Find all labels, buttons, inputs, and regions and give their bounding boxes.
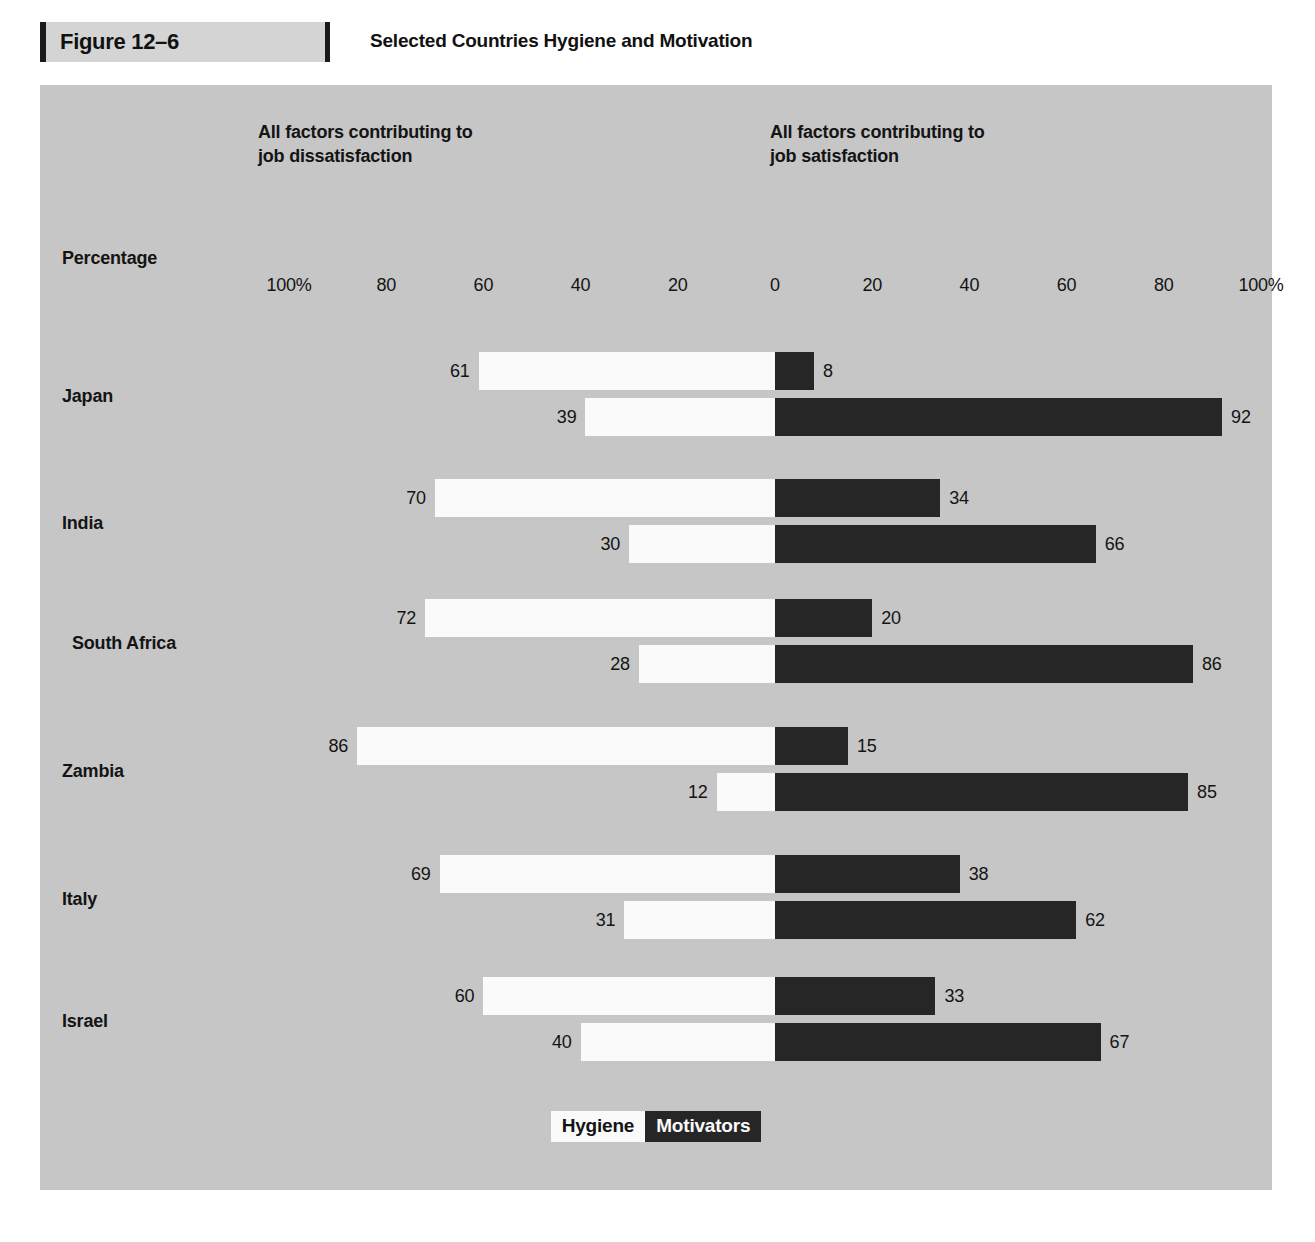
bar-value-right: 38 xyxy=(960,855,989,893)
bar-value-left: 86 xyxy=(328,727,357,765)
bar-hygiene[interactable] xyxy=(357,727,775,765)
bar-value-right: 92 xyxy=(1222,398,1251,436)
bar-row: 3992 xyxy=(40,398,1272,436)
x-axis-tick: 80 xyxy=(1154,275,1174,296)
country-group: India70343066 xyxy=(40,477,1272,577)
x-axis-tick: 20 xyxy=(862,275,882,296)
bar-motivators[interactable] xyxy=(775,525,1096,563)
bar-row: 7220 xyxy=(40,599,1272,637)
x-axis-tick: 60 xyxy=(474,275,494,296)
bar-motivators[interactable] xyxy=(775,1023,1101,1061)
country-group: Zambia86151285 xyxy=(40,725,1272,825)
chart-panel: All factors contributing to job dissatis… xyxy=(40,85,1272,1190)
bar-motivators[interactable] xyxy=(775,645,1193,683)
bar-value-left: 30 xyxy=(601,525,630,563)
bar-motivators[interactable] xyxy=(775,901,1076,939)
bar-value-left: 61 xyxy=(450,352,479,390)
axis-title-percentage: Percentage xyxy=(62,248,157,269)
x-axis-tick-labels: 100%80604020020406080100% xyxy=(40,275,1272,301)
bar-row: 3066 xyxy=(40,525,1272,563)
bar-motivators[interactable] xyxy=(775,855,960,893)
bar-value-right: 85 xyxy=(1188,773,1217,811)
bar-hygiene[interactable] xyxy=(629,525,775,563)
bar-motivators[interactable] xyxy=(775,599,872,637)
x-axis-tick: 100% xyxy=(266,275,311,296)
bar-hygiene[interactable] xyxy=(479,352,775,390)
column-header-dissatisfaction: All factors contributing to job dissatis… xyxy=(258,121,473,169)
country-group: Israel60334067 xyxy=(40,975,1272,1075)
bar-row: 8615 xyxy=(40,727,1272,765)
bar-row: 618 xyxy=(40,352,1272,390)
bar-hygiene[interactable] xyxy=(717,773,775,811)
column-header-satisfaction: All factors contributing to job satisfac… xyxy=(770,121,985,169)
bar-value-right: 66 xyxy=(1096,525,1125,563)
bar-value-right: 15 xyxy=(848,727,877,765)
bar-value-left: 40 xyxy=(552,1023,581,1061)
x-axis-tick: 20 xyxy=(668,275,688,296)
bar-row: 7034 xyxy=(40,479,1272,517)
bar-motivators[interactable] xyxy=(775,352,814,390)
country-group: South Africa72202886 xyxy=(40,597,1272,697)
bar-row: 1285 xyxy=(40,773,1272,811)
bar-motivators[interactable] xyxy=(775,977,935,1015)
bar-motivators[interactable] xyxy=(775,773,1188,811)
bar-row: 4067 xyxy=(40,1023,1272,1061)
bar-value-left: 39 xyxy=(557,398,586,436)
bar-value-right: 86 xyxy=(1193,645,1222,683)
x-axis-tick: 80 xyxy=(376,275,396,296)
bar-hygiene[interactable] xyxy=(483,977,775,1015)
country-group: Japan6183992 xyxy=(40,350,1272,450)
x-axis-tick: 40 xyxy=(571,275,591,296)
legend-item-motivators[interactable]: Motivators xyxy=(645,1111,761,1142)
bar-value-left: 69 xyxy=(411,855,440,893)
bar-hygiene[interactable] xyxy=(585,398,775,436)
bar-hygiene[interactable] xyxy=(581,1023,775,1061)
bar-value-left: 31 xyxy=(596,901,625,939)
x-axis-tick: 100% xyxy=(1238,275,1283,296)
legend-item-hygiene[interactable]: Hygiene xyxy=(551,1111,646,1142)
bar-value-right: 33 xyxy=(935,977,964,1015)
figure-number-label: Figure 12–6 xyxy=(46,29,179,55)
bar-value-right: 62 xyxy=(1076,901,1105,939)
bar-row: 2886 xyxy=(40,645,1272,683)
bar-hygiene[interactable] xyxy=(425,599,775,637)
bar-value-left: 12 xyxy=(688,773,717,811)
x-axis-tick: 0 xyxy=(770,275,780,296)
bar-value-right: 67 xyxy=(1101,1023,1130,1061)
bar-value-right: 20 xyxy=(872,599,901,637)
bar-hygiene[interactable] xyxy=(440,855,775,893)
figure-header: Figure 12–6 Selected Countries Hygiene a… xyxy=(0,0,1315,85)
bar-hygiene[interactable] xyxy=(639,645,775,683)
country-group: Italy69383162 xyxy=(40,853,1272,953)
bar-hygiene[interactable] xyxy=(624,901,775,939)
bar-row: 6938 xyxy=(40,855,1272,893)
bar-value-left: 28 xyxy=(610,645,639,683)
figure-title: Selected Countries Hygiene and Motivatio… xyxy=(370,30,752,52)
bar-value-left: 60 xyxy=(455,977,484,1015)
x-axis-tick: 60 xyxy=(1057,275,1077,296)
bar-motivators[interactable] xyxy=(775,479,940,517)
bar-row: 6033 xyxy=(40,977,1272,1015)
bar-value-left: 72 xyxy=(396,599,425,637)
bar-value-left: 70 xyxy=(406,479,435,517)
figure-number-box: Figure 12–6 xyxy=(40,22,330,62)
bar-value-right: 8 xyxy=(814,352,833,390)
chart-legend: Hygiene Motivators xyxy=(40,1111,1272,1142)
bar-motivators[interactable] xyxy=(775,398,1222,436)
bar-hygiene[interactable] xyxy=(435,479,775,517)
bar-row: 3162 xyxy=(40,901,1272,939)
bar-motivators[interactable] xyxy=(775,727,848,765)
bar-value-right: 34 xyxy=(940,479,969,517)
x-axis-tick: 40 xyxy=(960,275,980,296)
